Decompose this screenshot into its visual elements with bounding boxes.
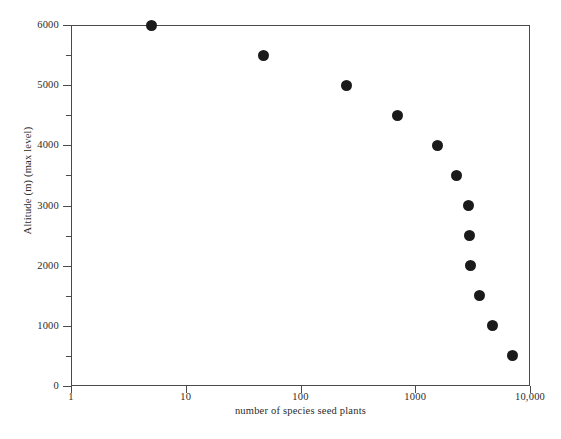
- y-tick-label: 1000: [0, 321, 59, 332]
- data-point: [487, 320, 498, 331]
- y-tick-label: 5000: [0, 80, 59, 91]
- plot-data-area: [71, 25, 530, 386]
- x-tick-label: 10: [146, 391, 226, 403]
- scatter-plot-figure: Altitude (m) (max level) 010002000300040…: [0, 0, 561, 439]
- y-tick-mark: [63, 25, 71, 26]
- y-tick-label: 4000: [0, 140, 59, 151]
- y-tick-mark: [63, 266, 71, 267]
- y-tick-label: 3000: [0, 201, 59, 212]
- data-point: [464, 230, 475, 241]
- y-tick-mark: [63, 386, 71, 387]
- data-point: [432, 140, 443, 151]
- y-tick-mark: [63, 145, 71, 146]
- y-tick-label: 6000: [0, 20, 59, 31]
- y-axis-title: Altitude (m) (max level): [22, 96, 33, 266]
- data-point: [474, 290, 485, 301]
- y-tick-label: 0: [0, 381, 59, 392]
- data-point: [451, 170, 462, 181]
- y-tick-mark: [63, 206, 71, 207]
- y-tick-label: 2000: [0, 261, 59, 272]
- data-point: [258, 50, 269, 61]
- data-point: [392, 110, 403, 121]
- x-tick-label: 10,000: [490, 391, 561, 403]
- y-tick-mark: [63, 85, 71, 86]
- x-tick-label: 1000: [375, 391, 455, 403]
- data-point: [465, 260, 476, 271]
- x-axis-title: number of species seed plants: [71, 405, 530, 416]
- data-point: [507, 350, 518, 361]
- data-point: [463, 200, 474, 211]
- data-point: [146, 20, 157, 31]
- y-tick-mark: [63, 326, 71, 327]
- data-point: [341, 80, 352, 91]
- x-tick-label: 100: [261, 391, 341, 403]
- x-tick-label: 1: [31, 391, 111, 403]
